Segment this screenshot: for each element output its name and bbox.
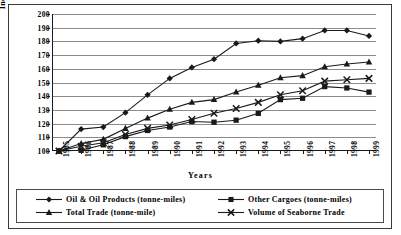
data-series [56,27,372,154]
x-axis-tick-mark [214,151,215,154]
x-axis-tick-mark [236,151,237,154]
legend-item[interactable]: Total Trade (tonne-mile) [35,208,155,217]
legend-marker-square-icon [217,195,245,204]
x-axis-tick-label: 1991 [195,141,204,157]
x-axis-tick-mark [125,151,126,154]
x-axis-tick-mark [325,151,326,154]
y-axis-tick-mark [47,83,50,84]
y-axis-tick-mark [47,151,50,152]
data-point-marker [255,99,262,106]
x-axis-tick-mark [170,151,171,154]
series-layer [52,14,376,151]
data-point-marker [278,97,283,102]
x-axis-tick-mark [59,151,60,154]
x-axis-tick-mark [303,151,304,154]
x-axis-tick-label: 1999 [372,141,381,157]
legend-item[interactable]: Oil & Oil Products (tonne-miles) [35,195,185,204]
x-axis-tick-mark [148,151,149,154]
x-axis-tick-label: 1994 [261,141,270,157]
x-axis-tick-label: 1985 [62,141,71,157]
x-axis-tick-mark [369,151,370,154]
data-point-marker [344,27,350,33]
x-axis-tick-mark [81,151,82,154]
legend-marker-triangle-icon [35,208,63,217]
x-axis-tick-mark [258,151,259,154]
data-point-marker [366,89,371,94]
legend-label: Total Trade (tonne-mile) [66,208,155,217]
y-axis-tick-mark [47,14,50,15]
y-axis-tick-mark [47,110,50,111]
x-axis-tick-label: 1993 [239,141,248,157]
chart-figure: Index (1985=100) 10011012013014015016017… [0,0,401,235]
x-axis-tick-label: 1986 [84,141,93,157]
data-point-marker [366,58,373,64]
x-axis-tick-label: 1987 [106,141,115,157]
legend-label: Other Cargoes (tonne-miles) [248,195,352,204]
data-point-marker [256,111,261,116]
data-point-marker [234,118,239,123]
legend-item[interactable]: Other Cargoes (tonne-miles) [217,195,352,204]
data-point-marker [344,85,349,90]
x-axis-tick-label: 1990 [173,141,182,157]
x-axis-tick-mark [192,151,193,154]
data-point-marker [211,120,216,125]
y-axis-tick-mark [47,69,50,70]
data-point-marker [100,124,106,130]
legend-item[interactable]: Volume of Seaborne Trade [217,208,345,217]
x-axis-tick-label: 1989 [151,141,160,157]
data-point-marker [189,64,195,70]
y-axis-tick-mark [47,124,50,125]
x-axis-tick-mark [347,151,348,154]
data-point-marker [322,84,327,89]
y-axis-tick-mark [47,55,50,56]
x-axis-tick-label: 1998 [350,141,359,157]
y-axis-tick-mark [47,28,50,29]
chart-legend: Oil & Oil Products (tonne-miles)Other Ca… [16,189,384,223]
data-series [56,58,373,153]
x-axis-tick-label: 1997 [328,141,337,157]
data-point-marker [322,27,328,33]
y-axis-tick-mark [47,137,50,138]
series-line [59,62,369,151]
x-axis-tick-mark [103,151,104,154]
data-point-marker [255,38,261,44]
y-axis-tick-labels: 100110120130140150160170180190200 [14,14,50,151]
x-axis-tick-label: 1996 [306,141,315,157]
legend-marker-x-icon [217,208,245,217]
legend-label: Volume of Seaborne Trade [248,208,345,217]
data-point-marker [366,33,372,39]
legend-marker-diamond-icon [35,195,63,204]
legend-label: Oil & Oil Products (tonne-miles) [66,195,185,204]
data-point-marker [277,38,283,44]
series-line [59,30,369,151]
data-point-marker [299,36,305,42]
y-axis-tick-mark [47,96,50,97]
x-axis-tick-label: 1992 [217,141,226,157]
plot-area-wrapper [52,14,376,151]
plot-area [52,14,376,151]
x-axis-tick-mark [280,151,281,154]
y-axis-tick-mark [47,41,50,42]
y-axis-title: Index (1985=100) [0,0,7,32]
x-axis-tick-label: 1995 [283,141,292,157]
x-axis-tick-label: 1988 [128,141,137,157]
x-axis-title: Years [0,171,401,180]
data-point-marker [300,96,305,101]
